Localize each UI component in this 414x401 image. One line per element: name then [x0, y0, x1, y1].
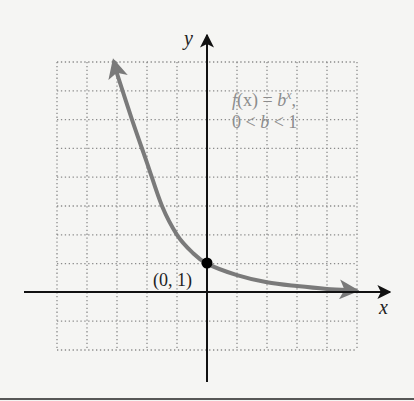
function-label-line1: f(x) = bx,: [232, 88, 296, 111]
x-axis-label: x: [378, 296, 388, 318]
graph-canvas: x y f(x) = bx, 0 < b < 1 (0, 1): [0, 0, 414, 401]
exponential-decay-figure: x y f(x) = bx, 0 < b < 1 (0, 1): [0, 0, 414, 401]
y-intercept-point: [202, 258, 213, 269]
point-label: (0, 1): [153, 270, 192, 291]
function-label-line2: 0 < b < 1: [232, 112, 297, 132]
y-axis-label: y: [182, 27, 193, 50]
